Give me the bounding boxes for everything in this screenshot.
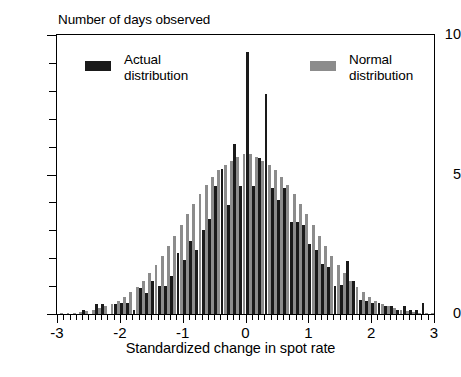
x-axis-tick-minor [70, 315, 71, 320]
x-axis-tick-major [183, 315, 184, 323]
x-axis-tick-major [246, 315, 247, 323]
bar-actual [396, 310, 399, 314]
x-axis-tick-minor [170, 315, 171, 320]
bar-actual [195, 250, 198, 314]
y-axis-title: Number of days observed [58, 12, 210, 28]
y-axis-tick-major [47, 175, 56, 176]
x-axis-tick-major [120, 315, 121, 323]
x-axis-tick-label: 2 [351, 324, 391, 341]
bar-actual [189, 241, 192, 314]
x-axis-tick-minor [239, 315, 240, 320]
bar-actual [334, 286, 337, 314]
y-axis-tick-minor [49, 230, 56, 231]
legend-label-normal-line1: Normal [349, 52, 392, 67]
bar-actual [183, 260, 186, 314]
x-axis-tick-minor [101, 315, 102, 320]
x-axis-tick-minor [208, 315, 209, 320]
legend-swatch-normal [310, 61, 336, 71]
bar-actual [139, 288, 142, 315]
x-axis-tick-major [371, 315, 372, 323]
bar-actual [202, 230, 205, 314]
x-axis-tick-major [57, 315, 58, 323]
x-axis-tick-minor [189, 315, 190, 320]
bar-actual [352, 281, 355, 314]
x-axis-tick-minor [277, 315, 278, 320]
y-axis-tick-minor [49, 202, 56, 203]
bar-normal [104, 306, 107, 314]
x-axis-tick-label: -3 [37, 324, 77, 341]
x-axis-tick-minor [352, 315, 353, 320]
bar-normal [431, 313, 434, 314]
bar-actual [95, 304, 98, 314]
bar-actual [158, 286, 161, 314]
x-axis-tick-minor [214, 315, 215, 320]
bar-actual [308, 244, 311, 314]
bar-actual [327, 267, 330, 314]
x-axis-tick-minor [409, 315, 410, 320]
bar-normal [73, 313, 76, 314]
y-axis-tick-major [47, 35, 56, 36]
bar-actual [390, 306, 393, 314]
bar-actual [258, 158, 261, 314]
bar-actual [214, 186, 217, 314]
bar-actual [296, 222, 299, 314]
legend-label-actual-line2: distribution [124, 68, 188, 84]
bar-normal [425, 313, 428, 314]
x-axis-tick-minor [365, 315, 366, 320]
x-axis-tick-minor [258, 315, 259, 320]
bar-actual [277, 200, 280, 314]
x-axis-tick-minor [333, 315, 334, 320]
x-axis-tick-minor [76, 315, 77, 320]
bar-actual [239, 186, 242, 314]
x-axis-tick-minor [252, 315, 253, 320]
x-axis-tick-minor [396, 315, 397, 320]
x-axis-title: Standardized change in spot rate [0, 340, 461, 356]
bar-actual [378, 303, 381, 314]
bar-actual [371, 303, 374, 314]
bar-actual [271, 188, 274, 314]
legend-label-normal-line2: distribution [349, 68, 413, 84]
x-axis-tick-label: 0 [226, 324, 266, 341]
bar-actual [208, 219, 211, 314]
bar-actual [114, 304, 117, 314]
x-axis-tick-label: -2 [100, 324, 140, 341]
bar-actual [283, 188, 286, 314]
bar-actual [133, 310, 136, 314]
x-axis-tick-minor [151, 315, 152, 320]
legend-label-actual-line1: Actual [124, 52, 161, 67]
bar-actual [177, 253, 180, 314]
x-axis-tick-minor [139, 315, 140, 320]
bar-normal [60, 313, 63, 314]
x-axis-tick-minor [421, 315, 422, 320]
x-axis-tick-minor [63, 315, 64, 320]
x-axis-tick-major [434, 315, 435, 323]
bar-actual [265, 94, 268, 314]
x-axis-tick-minor [195, 315, 196, 320]
bar-actual [233, 144, 236, 314]
x-axis-tick-minor [315, 315, 316, 320]
bar-actual [415, 310, 418, 314]
x-axis-tick-minor [428, 315, 429, 320]
bar-actual [384, 306, 387, 314]
bar-actual [126, 303, 129, 314]
x-axis-tick-minor [390, 315, 391, 320]
bar-actual [164, 286, 167, 314]
x-axis-tick-minor [403, 315, 404, 320]
bar-actual [227, 205, 230, 314]
bar-normal [67, 313, 70, 314]
x-axis-tick-minor [227, 315, 228, 320]
bar-actual [221, 169, 224, 314]
histogram-chart: Number of days observed 0510 -3-2-10123 … [0, 0, 461, 377]
bar-actual [82, 310, 85, 314]
x-axis-tick-minor [107, 315, 108, 320]
x-axis-tick-minor [359, 315, 360, 320]
bar-actual [346, 261, 349, 314]
bar-actual [422, 303, 425, 314]
bar-actual [145, 293, 148, 314]
y-axis-tick-minor [49, 286, 56, 287]
x-axis-tick-minor [289, 315, 290, 320]
x-axis-tick-minor [346, 315, 347, 320]
x-axis-tick-minor [271, 315, 272, 320]
y-axis-tick-minor [49, 63, 56, 64]
bar-actual [365, 301, 368, 314]
